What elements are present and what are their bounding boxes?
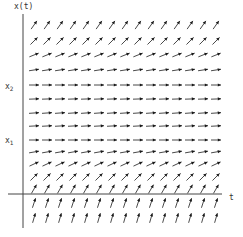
arrow-head-icon [62, 83, 65, 86]
arrow-head-icon [60, 21, 63, 25]
arrow-head-icon [87, 150, 90, 153]
arrow-head-icon [88, 138, 91, 141]
arrow-head-icon [111, 198, 114, 202]
arrow-head-icon [114, 124, 117, 127]
arrow-head-icon [150, 198, 153, 202]
arrow-head-icon [49, 124, 52, 127]
arrow-head-icon [203, 21, 206, 25]
direction-arrows [29, 21, 221, 223]
arrow-head-icon [101, 111, 104, 114]
arrow-head-icon [75, 111, 78, 114]
arrow-head-icon [177, 21, 180, 25]
arrow-head-icon [49, 138, 52, 141]
arrow-head-icon [127, 97, 130, 100]
arrow-head-icon [127, 124, 130, 127]
arrow-head-icon [166, 138, 169, 141]
arrow-head-icon [153, 124, 156, 127]
arrow-head-icon [192, 68, 195, 71]
arrow-head-icon [125, 21, 128, 25]
arrow-head-icon [62, 68, 65, 71]
arrow-head-icon [153, 111, 156, 114]
arrow-head-icon [204, 150, 207, 153]
arrow-head-icon [62, 124, 65, 127]
arrow-head-icon [152, 150, 155, 153]
arrow-head-icon [216, 21, 219, 25]
arrow-head-icon [75, 124, 78, 127]
arrow-head-icon [205, 97, 208, 100]
arrow-head-icon [179, 68, 182, 71]
arrow-head-icon [100, 150, 103, 153]
arrow-head-icon [189, 198, 192, 202]
arrow-head-icon [59, 198, 62, 202]
arrow-head-icon [36, 83, 39, 86]
arrow-head-icon [192, 111, 195, 114]
arrow-head-icon [166, 68, 169, 71]
x-axis-label: t [229, 194, 234, 202]
arrow-head-icon [101, 97, 104, 100]
arrow-head-icon [101, 138, 104, 141]
arrow-head-icon [88, 111, 91, 114]
arrow-head-icon [62, 97, 65, 100]
arrow-head-icon [205, 124, 208, 127]
arrow-head-icon [112, 21, 115, 25]
arrow-head-icon [127, 138, 130, 141]
arrow-head-icon [114, 111, 117, 114]
arrow-head-icon [218, 138, 221, 141]
arrow-head-icon [192, 83, 195, 86]
arrow-head-icon [88, 68, 91, 71]
arrow-head-icon [179, 138, 182, 141]
arrow-head-icon [61, 150, 64, 153]
arrow-head-icon [127, 83, 130, 86]
arrow-head-icon [49, 68, 52, 71]
arrow-head-icon [218, 68, 221, 71]
arrow-head-icon [140, 138, 143, 141]
arrow-head-icon [114, 68, 117, 71]
arrow-head-icon [163, 198, 166, 202]
arrow-head-icon [36, 111, 39, 114]
arrow-head-icon [62, 111, 65, 114]
arrow-head-icon [140, 111, 143, 114]
arrow-head-icon [140, 97, 143, 100]
y-axis-label: x(t) [14, 3, 33, 11]
arrow-head-icon [153, 68, 156, 71]
arrow-head-icon [166, 83, 169, 86]
arrow-head-icon [49, 97, 52, 100]
arrow-head-icon [205, 83, 208, 86]
arrow-head-icon [218, 83, 221, 86]
arrow-head-icon [124, 198, 127, 202]
arrow-head-icon [62, 138, 65, 141]
arrow-head-icon [140, 83, 143, 86]
arrow-head-icon [75, 83, 78, 86]
arrow-head-icon [217, 150, 220, 153]
arrow-head-icon [99, 21, 102, 25]
arrow-head-icon [74, 150, 77, 153]
arrow-head-icon [179, 97, 182, 100]
arrow-head-icon [86, 21, 89, 25]
arrow-head-icon [85, 198, 88, 202]
arrow-head-icon [151, 21, 154, 25]
arrow-head-icon [75, 138, 78, 141]
arrow-head-icon [166, 124, 169, 127]
arrow-head-icon [101, 124, 104, 127]
arrow-head-icon [192, 97, 195, 100]
arrow-head-icon [218, 97, 221, 100]
arrow-head-icon [205, 138, 208, 141]
arrow-head-icon [36, 124, 39, 127]
arrow-head-icon [88, 124, 91, 127]
arrow-head-icon [179, 111, 182, 114]
arrow-head-icon [73, 21, 76, 25]
arrow-head-icon [218, 124, 221, 127]
arrow-head-icon [75, 97, 78, 100]
arrow-head-icon [166, 111, 169, 114]
arrow-head-icon [35, 150, 38, 153]
arrow-head-icon [36, 97, 39, 100]
slope-field-diagram [0, 0, 243, 237]
arrow-head-icon [36, 138, 39, 141]
arrow-head-icon [88, 83, 91, 86]
arrow-head-icon [153, 83, 156, 86]
arrow-head-icon [137, 198, 140, 202]
arrow-head-icon [114, 97, 117, 100]
arrow-head-icon [46, 198, 49, 202]
equilibrium-label-x2: x2 [5, 83, 13, 92]
arrow-head-icon [48, 150, 51, 153]
